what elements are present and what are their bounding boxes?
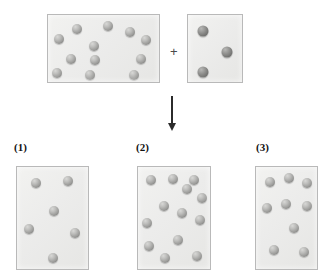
- reactant-a-box: [47, 14, 160, 83]
- plus-operator: +: [170, 45, 178, 58]
- reactant-b-sphere: [198, 26, 209, 37]
- choice-3-sphere: [302, 178, 312, 188]
- choice-2-sphere: [197, 193, 207, 203]
- reactant-a-sphere: [125, 27, 135, 37]
- reactant-a-sphere: [54, 34, 64, 44]
- choice-3-sphere: [302, 201, 312, 211]
- reactant-a-sphere: [141, 35, 151, 45]
- choice-2-sphere: [182, 184, 192, 194]
- choice-2-sphere: [142, 218, 152, 228]
- choice-1-sphere: [49, 206, 59, 216]
- reactant-a-sphere: [103, 21, 113, 31]
- choice-2-sphere: [192, 251, 202, 261]
- choice-3-sphere: [269, 245, 279, 255]
- reactant-a-sphere: [85, 70, 95, 80]
- choice-2-sphere: [159, 201, 169, 211]
- choice-3-sphere: [284, 173, 294, 183]
- reactant-a-sphere: [90, 55, 100, 65]
- reactant-b-sphere: [222, 47, 233, 58]
- reactant-b-box: [187, 14, 243, 83]
- reactant-a-sphere: [136, 54, 146, 64]
- figure-canvas: + (1) (2) (3): [0, 0, 336, 279]
- reactant-a-sphere: [72, 24, 82, 34]
- choice-3-sphere: [289, 223, 299, 233]
- choice-1-box[interactable]: [16, 166, 89, 270]
- reactant-a-sphere: [89, 41, 99, 51]
- arrow-head-icon: [168, 123, 176, 131]
- choice-1-sphere: [70, 228, 80, 238]
- reactant-b-sphere: [198, 67, 209, 78]
- yields-arrow: [166, 96, 178, 131]
- choice-1-label: (1): [14, 142, 27, 153]
- choice-1-sphere: [48, 253, 58, 263]
- choice-2-sphere: [177, 208, 187, 218]
- choice-3-sphere: [265, 177, 275, 187]
- choice-2-sphere: [146, 175, 156, 185]
- choice-3-sphere: [262, 203, 272, 213]
- choice-2-sphere: [144, 241, 154, 251]
- choice-3-sphere: [281, 199, 291, 209]
- choice-2-sphere: [195, 215, 205, 225]
- choice-1-sphere: [24, 224, 34, 234]
- choice-3-sphere: [299, 247, 309, 257]
- reactant-a-sphere: [66, 54, 76, 64]
- choice-2-box[interactable]: [137, 166, 211, 270]
- choice-2-label: (2): [136, 142, 149, 153]
- choice-2-sphere: [160, 253, 170, 263]
- choice-3-box[interactable]: [255, 166, 318, 270]
- arrow-shaft: [171, 96, 173, 124]
- choice-3-label: (3): [256, 142, 269, 153]
- choice-1-sphere: [63, 176, 73, 186]
- reactant-a-sphere: [52, 68, 62, 78]
- reactant-a-sphere: [129, 70, 139, 80]
- choice-2-sphere: [189, 175, 199, 185]
- choice-2-sphere: [168, 174, 178, 184]
- choice-2-sphere: [173, 235, 183, 245]
- choice-1-sphere: [31, 178, 41, 188]
